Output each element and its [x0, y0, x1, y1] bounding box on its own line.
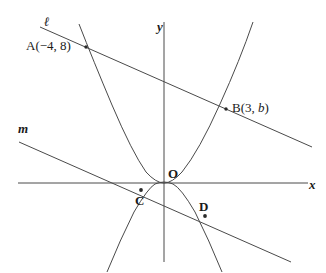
y-axis-label: y: [157, 20, 163, 33]
point-b-label: B(3, b): [232, 101, 269, 114]
x-axis-label: x: [309, 178, 316, 191]
point-d-label: D: [199, 200, 208, 213]
line-m-label: m: [18, 122, 28, 135]
point-c-label: C: [135, 194, 144, 207]
line-l-label: ℓ: [44, 15, 50, 28]
geometry-figure: ℓ m x y A(−4, 8) B(3, b) C D O: [0, 0, 326, 273]
point-c-marker: [139, 188, 143, 192]
line-m: [19, 142, 291, 262]
point-a-marker: [84, 45, 87, 48]
line-l: [40, 27, 312, 147]
upward-parabola: [79, 22, 253, 183]
point-b-marker: [224, 107, 227, 110]
point-d-marker: [203, 214, 207, 218]
point-a-label: A(−4, 8): [26, 39, 71, 52]
origin-label: O: [168, 167, 178, 180]
